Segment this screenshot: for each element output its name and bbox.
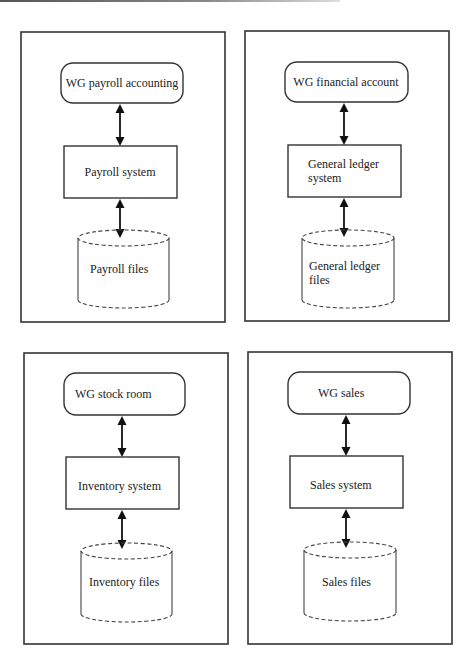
files-label: Sales files [322,575,371,589]
panel-financial: WG financial account General ledger syst… [245,31,449,321]
bidirectional-arrow-icon [340,103,349,145]
bidirectional-arrow-icon [116,104,125,146]
files-label-line2: files [309,273,330,287]
actor-label: WG payroll accounting [66,76,179,90]
panel-payroll: WG payroll accounting Payroll system Pay… [21,32,225,322]
panel-sales: WG sales Sales system Sales files [248,352,452,644]
panel-inventory: WG stock room Inventory system Inventory… [24,353,228,644]
files-label: Payroll files [90,262,149,276]
system-label: Sales system [310,478,372,492]
actor-label: WG financial account [293,75,399,89]
system-label-line2: system [308,171,342,185]
bidirectional-arrow-icon [118,416,127,457]
system-node [288,145,401,197]
files-label-line1: General ledger [309,259,380,273]
files-label: Inventory files [89,575,160,589]
actor-label: WG stock room [75,387,152,401]
system-label: Inventory system [78,479,162,493]
bidirectional-arrow-icon [340,198,349,237]
workgroup-systems-diagram: WG payroll accounting Payroll system Pay… [0,0,471,669]
bidirectional-arrow-icon [116,199,125,238]
system-label-line1: General ledger [308,157,379,171]
bidirectional-arrow-icon [342,415,351,456]
system-label: Payroll system [85,165,157,179]
actor-label: WG sales [318,386,365,400]
